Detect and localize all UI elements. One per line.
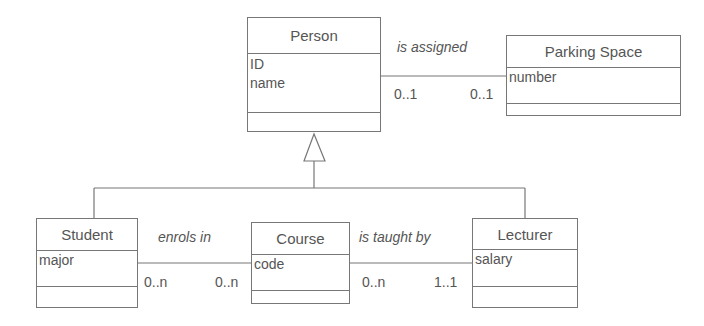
multiplicity-lecturer-course: 1..1 (434, 274, 457, 290)
association-label-enrols-in: enrols in (158, 229, 211, 245)
multiplicity-person-parking: 0..1 (394, 86, 417, 102)
multiplicity-course-student: 0..n (215, 274, 238, 290)
association-label-is-assigned: is assigned (397, 39, 467, 55)
multiplicity-course-lecturer: 0..n (362, 274, 385, 290)
multiplicity-parking-person: 0..1 (470, 86, 493, 102)
generalization-arrow-icon (304, 134, 325, 161)
generalization-tree (94, 134, 525, 218)
association-label-is-taught-by: is taught by (359, 229, 431, 245)
multiplicity-student-course: 0..n (144, 274, 167, 290)
connectors (0, 0, 704, 326)
